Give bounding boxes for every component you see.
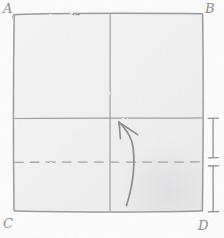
corner-label-c: C	[3, 217, 13, 230]
sketch-canvas	[0, 0, 224, 238]
corner-label-b: B	[205, 2, 215, 15]
paper-grain-overlay	[0, 0, 224, 238]
sketch-figure: A B C D	[0, 0, 224, 238]
corner-label-a: A	[3, 2, 12, 15]
corner-label-d: D	[198, 219, 208, 232]
